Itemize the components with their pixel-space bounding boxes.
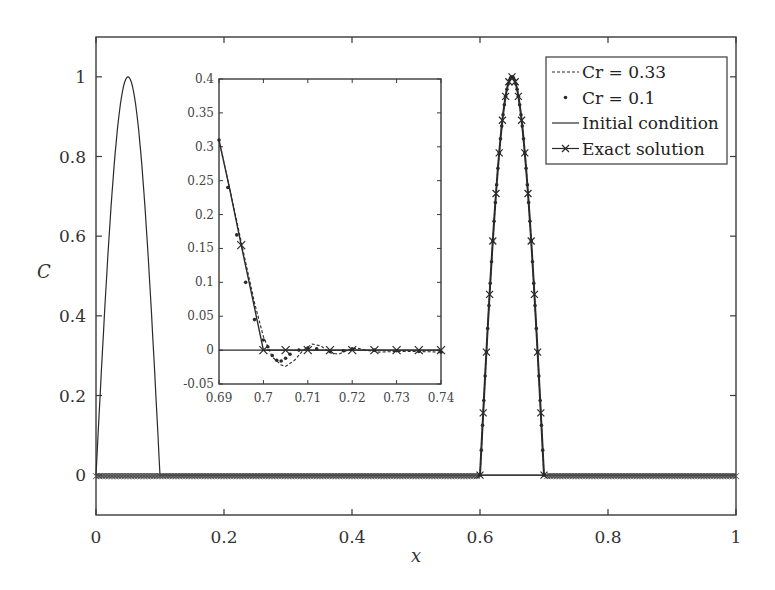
series-cr-01-dot <box>515 88 519 92</box>
inset-frame <box>219 79 441 384</box>
series-cr-01-dot <box>492 219 496 223</box>
legend-label: Initial condition <box>582 113 719 133</box>
series-cr-01-dot <box>482 399 486 403</box>
y-tick-label: 0.2 <box>59 386 86 406</box>
inset-series-cr-01-dot <box>270 354 274 358</box>
y-tick-label: 0.6 <box>59 226 86 246</box>
y-tick-label: 0.8 <box>59 147 86 167</box>
series-cr-01-dot <box>535 327 539 331</box>
inset-series-cr-01-dot <box>279 359 283 363</box>
series-cr-01-dot <box>501 113 505 117</box>
x-tick-label: 0.2 <box>210 527 237 547</box>
inset-y-tick-label: 0.05 <box>187 309 214 323</box>
inset-x-tick-label: 0.72 <box>339 391 366 405</box>
series-cr-01-dot <box>487 304 491 308</box>
series-cr-01-dot <box>500 124 504 128</box>
series-cr-01-dot <box>528 219 532 223</box>
series-cr-01-dot <box>527 201 531 205</box>
inset-y-tick-label: 0.1 <box>195 275 214 289</box>
x-tick-label: 0.8 <box>594 527 621 547</box>
legend-dot-icon <box>564 96 568 100</box>
series-cr-01-dot <box>503 103 507 107</box>
series-cr-01-dot <box>518 103 522 107</box>
inset-x-tick-label: 0.74 <box>428 391 455 405</box>
series-cr-01-dot <box>533 304 537 308</box>
inset-series-cr-01-dot <box>284 356 288 360</box>
series-cr-01-dot <box>505 88 509 92</box>
inset-y-tick-label: 0.2 <box>195 208 214 222</box>
series-cr-01-dot <box>522 137 526 141</box>
y-axis-label: C <box>37 261 51 282</box>
inset-series-cr-01-dot <box>235 233 239 237</box>
inset-x-tick-label: 0.71 <box>294 391 321 405</box>
inset-x-tick-label: 0.69 <box>206 391 233 405</box>
inset-y-tick-label: 0.35 <box>187 106 214 120</box>
series-cr-01-dot <box>494 201 498 205</box>
series-cr-01-dot <box>526 183 530 187</box>
series-cr-01-dot <box>540 423 544 427</box>
series-cr-01-dot <box>541 448 545 452</box>
series-cr-01-dot <box>532 281 536 285</box>
zero-band-left <box>96 473 480 478</box>
series-cr-01-dot <box>537 374 541 378</box>
inset-x-tick-label: 0.7 <box>254 391 273 405</box>
series-cr-01-dot <box>531 260 535 264</box>
series-cr-01-dot <box>496 166 500 170</box>
zero-band-right <box>547 473 736 478</box>
series-cr-033 <box>480 77 544 475</box>
inset-y-tick-label: -0.05 <box>183 377 214 391</box>
series-cr-01-dot <box>519 113 523 117</box>
inset-y-tick-label: 0.15 <box>187 241 214 255</box>
series-cr-01-dot <box>483 374 487 378</box>
series-exact-solution <box>480 77 544 475</box>
y-tick-label: 0 <box>75 465 86 485</box>
inset-series-cr-01-dot <box>275 358 279 362</box>
legend-label: Exact solution <box>582 139 705 159</box>
series-cr-01-dot <box>538 399 542 403</box>
x-axis-label: x <box>411 545 421 566</box>
legend-label: Cr = 0.33 <box>582 62 666 82</box>
inset-x-tick-label: 0.73 <box>383 391 410 405</box>
chart-canvas: 00.20.40.60.8100.20.40.60.81xC 0.690.70.… <box>0 0 775 590</box>
inset-y-tick-label: 0.25 <box>187 174 214 188</box>
inset-plot: 0.690.70.710.720.730.74-0.0500.050.10.15… <box>183 72 455 405</box>
inset-y-tick-label: 0.3 <box>195 140 214 154</box>
x-tick-label: 0.4 <box>338 527 365 547</box>
legend: Cr = 0.33Cr = 0.1Initial conditionExact … <box>546 57 727 164</box>
inset-series-cr-01-dot <box>244 281 248 285</box>
series-cr-01-dot <box>488 281 492 285</box>
inset-y-tick-label: 0 <box>206 343 214 357</box>
series-cr-01-dot <box>499 137 503 141</box>
x-tick-label: 0.6 <box>466 527 493 547</box>
legend-label: Cr = 0.1 <box>582 88 655 108</box>
series-cr-01-dot <box>481 423 485 427</box>
x-tick-label: 1 <box>731 527 742 547</box>
x-tick-label: 0 <box>91 527 102 547</box>
series-cr-01-dot <box>524 166 528 170</box>
series-cr-01-dot <box>495 183 499 187</box>
y-tick-label: 1 <box>75 67 86 87</box>
series-cr-01-dot <box>479 448 483 452</box>
inset-series-cr-01-dot <box>253 318 257 322</box>
series-cr-01-dot <box>486 327 490 331</box>
inset-y-tick-label: 0.4 <box>195 72 214 86</box>
series-cr-01-dot <box>520 124 524 128</box>
series-cr-01-dot <box>490 260 494 264</box>
y-tick-label: 0.4 <box>59 306 86 326</box>
